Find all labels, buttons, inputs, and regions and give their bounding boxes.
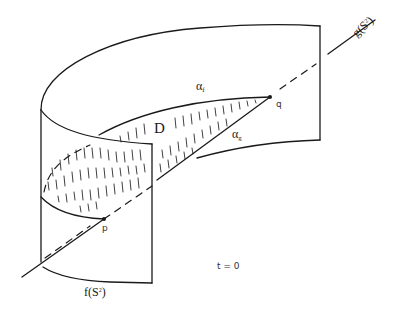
label-alpha-g-sub: g: [238, 134, 242, 142]
label-f-surface-text: f(S: [84, 285, 99, 299]
label-alpha-f: αf: [196, 80, 205, 94]
label-time: t = 0: [217, 262, 240, 271]
label-disk-d: D: [154, 121, 165, 136]
point-p-marker: [102, 217, 106, 221]
label-point-q: q: [276, 100, 282, 109]
point-q-marker: [268, 95, 272, 99]
band-lower-curve: [197, 140, 320, 158]
g-surface-line-hidden-3: [280, 64, 316, 89]
surface-diagram: [0, 0, 400, 317]
disk-lower-curve: [41, 197, 104, 219]
label-alpha-g: αg: [232, 128, 242, 142]
label-f-surface: f(S2): [84, 286, 106, 298]
band-top-arc: [41, 25, 320, 110]
g-surface-line-hidden-1: [104, 186, 152, 219]
g-surface-line-hidden-2: [45, 226, 90, 258]
label-f-surface-close: ): [102, 285, 106, 299]
disk-hidden-boundary: [44, 145, 90, 192]
diagram-canvas: g(S2) f(S2) αf αg D p q t = 0: [0, 0, 400, 317]
alpha-g-line: [157, 97, 270, 180]
label-point-p: p: [102, 224, 108, 233]
label-alpha-f-sub: f: [202, 86, 204, 94]
g-surface-line-front: [22, 219, 104, 277]
band-inner-curve: [41, 110, 152, 144]
front-bottom-curve: [43, 267, 152, 283]
